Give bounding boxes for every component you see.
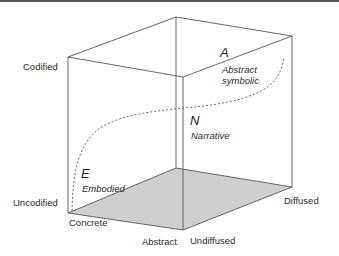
point-e-letter: E xyxy=(81,167,90,180)
point-a-label: Abstract symbolic xyxy=(222,65,259,87)
cube-diagram: Codified Uncodified Concrete Abstract Un… xyxy=(0,0,339,256)
cube-graphic xyxy=(0,0,339,256)
label-undiffused: Undiffused xyxy=(190,236,235,246)
label-concrete: Concrete xyxy=(69,218,108,228)
point-n-letter: N xyxy=(190,114,199,127)
label-diffused: Diffused xyxy=(284,196,319,206)
point-a-letter: A xyxy=(220,46,229,59)
label-codified: Codified xyxy=(23,62,58,72)
point-a-label-line1: Abstract xyxy=(222,64,257,75)
label-abstract: Abstract xyxy=(142,237,177,247)
point-a-label-line2: symbolic xyxy=(222,75,259,86)
label-uncodified: Uncodified xyxy=(13,198,58,208)
point-e-label: Embodied xyxy=(82,184,125,195)
point-n-label: Narrative xyxy=(191,131,230,142)
